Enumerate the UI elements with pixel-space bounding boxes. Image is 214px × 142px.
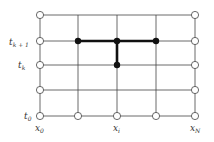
boundary-node: [191, 11, 198, 18]
label-t-k-plus-1: tk + 1: [9, 37, 29, 48]
boundary-node: [191, 86, 198, 93]
boundary-node: [36, 37, 43, 44]
stencil-node: [114, 62, 120, 68]
label-x-0: x0: [35, 123, 44, 134]
stencil-lines: [78, 41, 156, 65]
boundary-node: [36, 61, 43, 68]
stencil-node: [153, 38, 159, 44]
boundary-node: [36, 112, 43, 119]
label-x-i: xi: [113, 123, 120, 134]
boundary-node: [36, 86, 43, 93]
boundary-node: [36, 11, 43, 18]
stencil-diagram: tk + 1 tk t0 x0 xi xN: [0, 0, 214, 142]
label-t-k: tk: [18, 60, 26, 71]
boundary-node: [191, 112, 198, 119]
stencil-node: [114, 38, 120, 44]
boundary-node: [191, 37, 198, 44]
boundary-node: [191, 61, 198, 68]
boundary-node: [113, 112, 120, 119]
label-x-n: xN: [190, 123, 201, 134]
stencil-node: [75, 38, 81, 44]
label-t-0: t0: [24, 111, 32, 122]
boundary-node: [152, 112, 159, 119]
boundary-node: [74, 112, 81, 119]
